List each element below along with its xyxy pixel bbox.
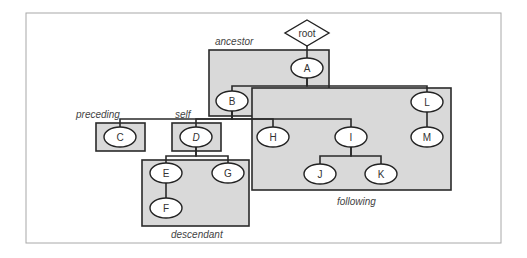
ancestor-label: ancestor <box>215 36 254 47</box>
node-G: G <box>212 163 244 183</box>
node-C: C <box>104 127 136 147</box>
node-C-label: C <box>116 132 123 143</box>
node-B-label: B <box>229 96 236 107</box>
node-A-label: A <box>304 63 311 74</box>
preceding-label: preceding <box>75 109 120 120</box>
node-L-label: L <box>424 97 430 108</box>
node-H: H <box>257 127 289 147</box>
node-D: D <box>180 127 212 147</box>
root-label: root <box>298 28 315 39</box>
node-I-label: I <box>350 132 353 143</box>
self-label: self <box>175 109 192 120</box>
descendant-label: descendant <box>171 229 224 240</box>
node-E-label: E <box>163 168 170 179</box>
node-M-label: M <box>423 132 431 143</box>
node-H-label: H <box>269 132 276 143</box>
node-L: L <box>411 92 443 112</box>
following-label: following <box>337 196 376 207</box>
node-G-label: G <box>224 168 232 179</box>
node-A: A <box>291 58 323 78</box>
node-J-label: J <box>318 169 323 180</box>
node-M: M <box>411 127 443 147</box>
node-F: F <box>150 198 182 218</box>
xpath-axes-diagram: root ABLCDHIMEGJKF ancestorfollowingprec… <box>0 0 527 258</box>
node-J: J <box>304 164 336 184</box>
node-D-label: D <box>192 132 199 143</box>
node-I: I <box>335 127 367 147</box>
node-B: B <box>216 91 248 111</box>
node-K-label: K <box>378 169 385 180</box>
node-F-label: F <box>163 203 169 214</box>
node-K: K <box>365 164 397 184</box>
node-E: E <box>150 163 182 183</box>
